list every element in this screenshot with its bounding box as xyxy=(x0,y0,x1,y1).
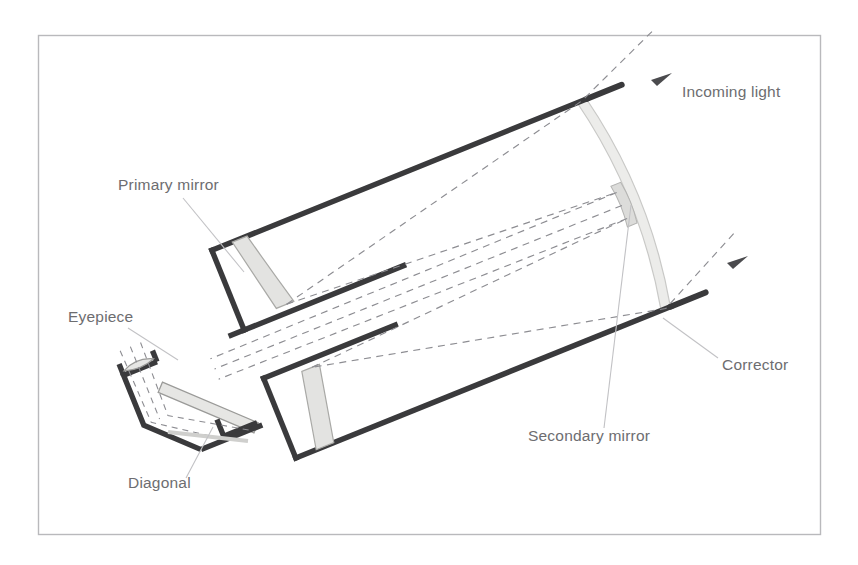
label-corrector: Corrector xyxy=(722,356,788,373)
telescope-optical-diagram: Primary mirror Incoming light Eyepiece C… xyxy=(0,0,858,565)
label-diagonal: Diagonal xyxy=(128,474,191,491)
label-primary-mirror: Primary mirror xyxy=(118,176,219,193)
label-secondary-mirror: Secondary mirror xyxy=(528,427,650,444)
label-incoming-light: Incoming light xyxy=(682,83,781,100)
figure-frame xyxy=(39,36,821,535)
label-eyepiece: Eyepiece xyxy=(68,308,133,325)
figure-canvas: Primary mirror Incoming light Eyepiece C… xyxy=(0,0,858,565)
